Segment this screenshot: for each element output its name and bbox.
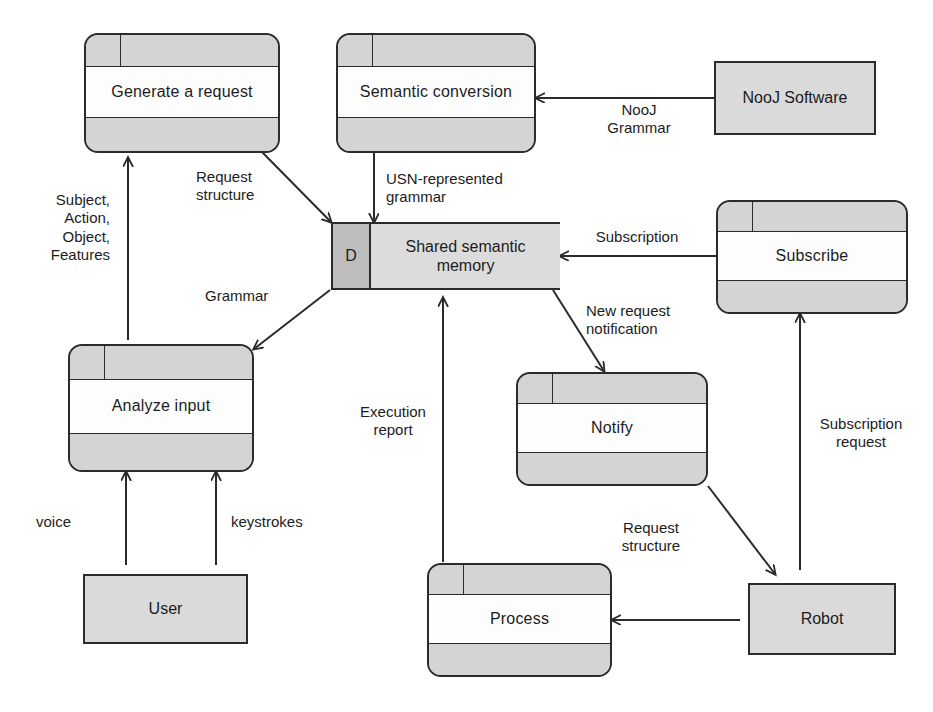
process-band-bottom	[70, 434, 252, 470]
process-tick	[120, 35, 121, 66]
process-band-bottom	[86, 118, 278, 151]
label-voice: voice	[36, 513, 106, 531]
process-band-top	[338, 35, 534, 67]
process-label: Process	[490, 610, 549, 628]
entity-label: NooJ Software	[743, 89, 848, 107]
process-label: Analyze input	[112, 397, 211, 415]
process-band-mid: Analyze input	[70, 380, 252, 434]
label-subscription: Subscription	[573, 228, 701, 246]
label-grammar: Grammar	[205, 287, 309, 305]
data-store-label: Shared semantic memory	[371, 224, 560, 288]
process-band-mid: Process	[429, 595, 610, 644]
process-band-mid: Notify	[518, 404, 706, 453]
flow-request-structure-bottom	[708, 486, 775, 574]
diagram-canvas: Generate a request Semantic conversion S…	[0, 0, 933, 712]
process-band-top	[518, 374, 706, 404]
process-band-bottom	[429, 644, 610, 675]
process-band-bottom	[718, 281, 906, 312]
entity-label: User	[149, 600, 183, 618]
process-analyze-input[interactable]: Analyze input	[68, 344, 254, 472]
process-band-top	[429, 565, 610, 595]
label-subject-action-object-features: Subject, Action, Object, Features	[12, 191, 110, 264]
data-store-id: D	[331, 224, 371, 288]
data-store-shared-semantic-memory[interactable]: D Shared semantic memory	[331, 222, 560, 290]
label-request-structure-bottom: Request structure	[598, 519, 704, 556]
label-execution-report: Execution report	[347, 403, 439, 440]
process-band-bottom	[518, 453, 706, 484]
process-band-top	[718, 202, 906, 232]
process-tick	[752, 202, 753, 231]
process-notify[interactable]: Notify	[516, 372, 708, 486]
process-semantic-conversion[interactable]: Semantic conversion	[336, 33, 536, 153]
label-subscription-request: Subscription request	[806, 415, 916, 452]
process-band-mid: Semantic conversion	[338, 67, 534, 118]
label-request-structure-top: Request structure	[196, 168, 306, 205]
process-tick	[552, 374, 553, 403]
label-nooj-grammar: NooJ Grammar	[586, 101, 692, 138]
entity-label: Robot	[801, 610, 844, 628]
process-label: Subscribe	[776, 247, 849, 265]
process-label: Notify	[591, 419, 633, 437]
process-generate-a-request[interactable]: Generate a request	[84, 33, 280, 153]
entity-nooj-software[interactable]: NooJ Software	[714, 61, 876, 135]
process-process[interactable]: Process	[427, 563, 612, 677]
process-label: Generate a request	[111, 83, 252, 101]
process-label: Semantic conversion	[360, 83, 512, 101]
process-band-top	[70, 346, 252, 380]
process-subscribe[interactable]: Subscribe	[716, 200, 908, 314]
entity-robot[interactable]: Robot	[748, 583, 896, 655]
label-keystrokes: keystrokes	[231, 513, 341, 531]
process-band-mid: Generate a request	[86, 67, 278, 118]
process-band-top	[86, 35, 278, 67]
process-band-bottom	[338, 118, 534, 151]
process-band-mid: Subscribe	[718, 232, 906, 281]
label-new-request-notification: New request notification	[586, 302, 716, 339]
process-tick	[463, 565, 464, 594]
label-usn-represented-grammar: USN-represented grammar	[386, 170, 536, 207]
process-tick	[372, 35, 373, 66]
process-tick	[104, 346, 105, 379]
entity-user[interactable]: User	[83, 574, 248, 644]
